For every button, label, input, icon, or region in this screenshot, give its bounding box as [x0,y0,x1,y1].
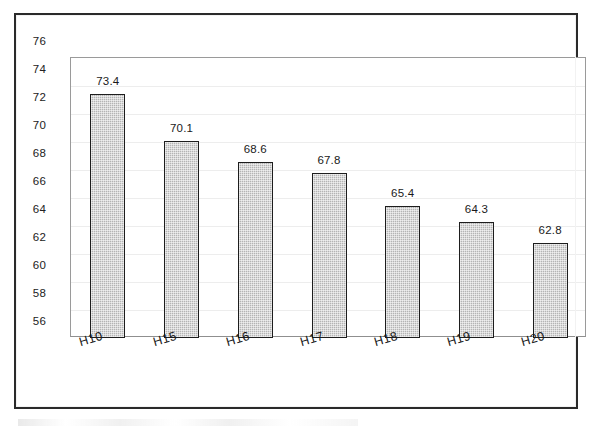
bar-H15 [164,141,199,338]
bar-value-label: 68.6 [225,144,285,156]
bar-value-label: 70.1 [152,123,212,135]
y-axis-tick-label: 60 [12,260,46,272]
y-axis-tick-label: 68 [12,148,46,160]
y-axis-tick-label: 58 [12,288,46,300]
bar-H18 [385,206,420,338]
y-axis-tick-label: 70 [12,120,46,132]
gridline [71,142,585,143]
bar-H16 [238,162,273,338]
figure-frame: 5658606264666870727476 73.470.168.667.86… [14,13,578,409]
gridline [71,114,585,115]
y-axis-tick-label: 72 [12,92,46,104]
bar-H10 [90,94,125,338]
y-axis-tick-label: 74 [12,64,46,76]
bar-value-label: 73.4 [78,76,138,88]
scan-artifact [18,419,358,426]
y-axis-tick-label: 76 [12,36,46,48]
bar-value-label: 64.3 [446,204,506,216]
y-axis-tick-label: 56 [12,316,46,328]
bar-H20 [533,243,568,338]
bar-value-label: 65.4 [373,188,433,200]
y-axis-tick-label: 62 [12,232,46,244]
gridline [71,86,585,87]
bar-value-label: 62.8 [520,225,580,237]
bar-H17 [312,173,347,338]
bar-H19 [459,222,494,338]
y-axis-tick-label: 64 [12,204,46,216]
bar-value-label: 67.8 [299,155,359,167]
plot-area: 73.470.168.667.865.464.362.8 [70,57,586,337]
y-axis-tick-label: 66 [12,176,46,188]
gridline [71,170,585,171]
